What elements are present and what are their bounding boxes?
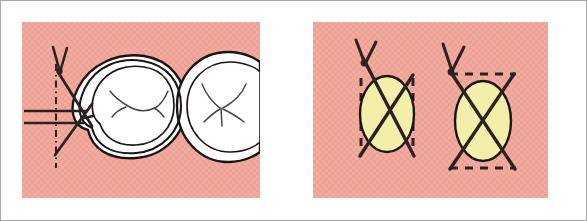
molar-group: [73, 52, 260, 162]
suture-knot-left: [361, 60, 368, 67]
suture-knot: [56, 68, 62, 74]
panel-occlusal-molars: [22, 22, 260, 198]
suture-knot-right: [448, 69, 455, 76]
first-molar-crown-outline: [92, 66, 174, 145]
panel-background: [313, 22, 548, 198]
figure-frame: [0, 0, 587, 221]
suture-strand-short-tail: [84, 116, 93, 118]
panel-suture-diagrams: [313, 22, 548, 198]
